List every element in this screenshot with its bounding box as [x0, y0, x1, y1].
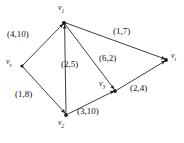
- node-label-v1: v1: [58, 4, 64, 14]
- node-v2: [64, 113, 68, 117]
- edge-label-vs-v2: (1,8): [15, 90, 32, 99]
- edge-v2-v1: [65, 25, 66, 114]
- node-layer: [20, 21, 168, 117]
- node-label-vt: vt: [171, 52, 176, 62]
- edge-label-v3-vt: (2,4): [130, 84, 147, 93]
- graph-canvas: [0, 0, 184, 143]
- edge-label-v1-v3: (6,2): [99, 54, 116, 63]
- node-label-v2: v2: [58, 119, 64, 129]
- edge-layer: [22, 23, 165, 114]
- node-label-v3: v3: [99, 80, 105, 90]
- node-vt: [164, 58, 168, 62]
- edge-label-vs-v1: (4,10): [7, 30, 29, 39]
- node-v1: [62, 21, 66, 25]
- edge-label-v2-v3: (3,10): [77, 107, 99, 116]
- node-label-vs: vs: [6, 58, 12, 68]
- node-v3: [113, 89, 117, 93]
- edge-label-v2-v1: (2,5): [61, 60, 78, 69]
- flow-network-figure: vs v1 v2 v3 vt (4,10) (1,8) (2,5) (6,2) …: [0, 0, 184, 143]
- edge-label-v1-vt: (1,7): [113, 27, 130, 36]
- node-vs: [20, 64, 23, 67]
